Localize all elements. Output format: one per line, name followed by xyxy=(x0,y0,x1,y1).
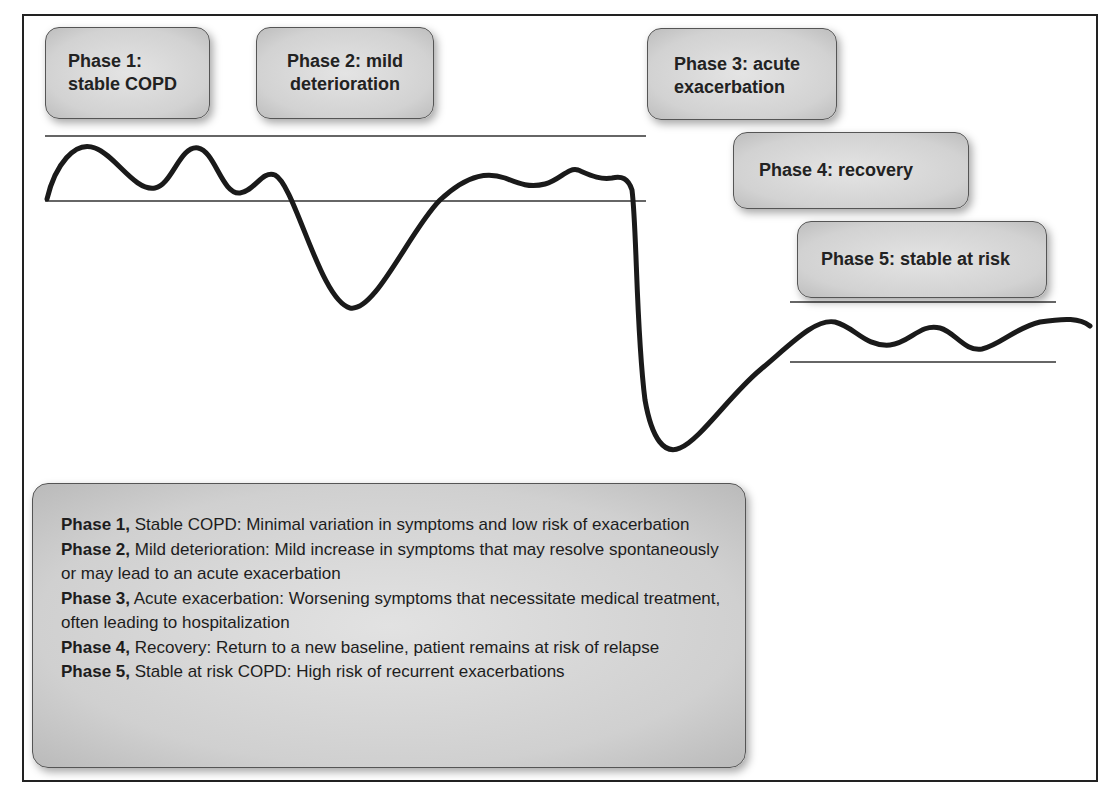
legend-phase-2-title: Phase 2, xyxy=(61,540,130,559)
phase-legend-box: Phase 1, Stable COPD: Minimal variation … xyxy=(32,483,746,768)
phase-1-label-line1: Phase 1: xyxy=(68,50,209,73)
legend-row-phase-5: Phase 5, Stable at risk COPD: High risk … xyxy=(61,660,725,685)
phase-1-label-box: Phase 1: stable COPD xyxy=(45,27,210,119)
phase-3-label-line2: exacerbation xyxy=(674,76,836,99)
legend-row-phase-4: Phase 4, Recovery: Return to a new basel… xyxy=(61,636,725,661)
legend-row-phase-2: Phase 2, Mild deterioration: Mild increa… xyxy=(61,538,725,587)
legend-phase-4-title: Phase 4, xyxy=(61,638,130,657)
legend-phase-5-title: Phase 5, xyxy=(61,662,130,681)
phase-5-label-line1: Phase 5: stable at risk xyxy=(821,248,1046,271)
legend-phase-2-text: Mild deterioration: Mild increase in sym… xyxy=(61,540,719,584)
legend-phase-3-text: Acute exacerbation: Worsening symptoms t… xyxy=(61,589,720,633)
phase-4-label-box: Phase 4: recovery xyxy=(733,132,969,209)
phase-3-label-line1: Phase 3: acute xyxy=(674,53,836,76)
phase-2-label-line2: deterioration xyxy=(257,73,433,96)
legend-row-phase-1: Phase 1, Stable COPD: Minimal variation … xyxy=(61,513,725,538)
legend-phase-1-text: Stable COPD: Minimal variation in sympto… xyxy=(130,515,689,534)
phase-1-label-line2: stable COPD xyxy=(68,73,209,96)
legend-phase-3-title: Phase 3, xyxy=(61,589,130,608)
legend-phase-5-text: Stable at risk COPD: High risk of recurr… xyxy=(130,662,565,681)
legend-row-phase-3: Phase 3, Acute exacerbation: Worsening s… xyxy=(61,587,725,636)
legend-phase-1-title: Phase 1, xyxy=(61,515,130,534)
phase-5-label-box: Phase 5: stable at risk xyxy=(797,221,1047,298)
legend-phase-4-text: Recovery: Return to a new baseline, pati… xyxy=(130,638,659,657)
phase-3-label-box: Phase 3: acute exacerbation xyxy=(647,28,837,120)
phase-4-label-line1: Phase 4: recovery xyxy=(759,159,968,182)
phase-2-label-box: Phase 2: mild deterioration xyxy=(256,27,434,119)
phase-2-label-line1: Phase 2: mild xyxy=(257,50,433,73)
